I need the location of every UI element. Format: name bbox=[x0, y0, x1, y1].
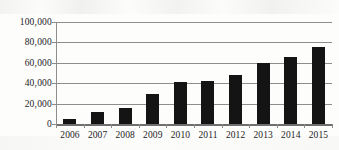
bar-2009 bbox=[146, 94, 159, 124]
x-tick-label-2008: 2008 bbox=[111, 130, 139, 141]
bar-2008 bbox=[119, 108, 132, 124]
y-tick-mark-60000 bbox=[52, 63, 57, 64]
bar-2013 bbox=[257, 63, 270, 124]
y-axis-tick-labels: 100,000 80,000 60,000 40,000 20,000 0 bbox=[0, 0, 52, 150]
x-tick-label-2010: 2010 bbox=[166, 130, 194, 141]
bar-2014 bbox=[284, 57, 297, 124]
x-tick-mark-9 bbox=[304, 124, 305, 128]
plot-area bbox=[56, 22, 332, 124]
x-tick-label-2014: 2014 bbox=[277, 130, 305, 141]
x-tick-label-2006: 2006 bbox=[56, 130, 84, 141]
bar-2006 bbox=[63, 119, 76, 124]
x-tick-mark-6 bbox=[222, 124, 223, 128]
x-tick-label-2007: 2007 bbox=[84, 130, 112, 141]
x-tick-mark-0 bbox=[56, 124, 57, 128]
x-tick-mark-10 bbox=[332, 124, 333, 128]
bar-chart-screenshot: 100,000 80,000 60,000 40,000 20,000 0 bbox=[0, 0, 339, 150]
x-tick-mark-2 bbox=[111, 124, 112, 128]
y-tick-label-80000: 80,000 bbox=[0, 37, 52, 47]
x-tick-label-2011: 2011 bbox=[194, 130, 222, 141]
y-tick-label-100000: 100,000 bbox=[0, 17, 52, 27]
x-tick-mark-3 bbox=[139, 124, 140, 128]
x-axis-tick-labels: 2006 2007 2008 2009 2010 2011 2012 2013 … bbox=[56, 130, 332, 144]
x-tick-label-2009: 2009 bbox=[139, 130, 167, 141]
y-axis-line bbox=[56, 22, 57, 124]
x-tick-mark-1 bbox=[84, 124, 85, 128]
bar-2011 bbox=[201, 81, 214, 124]
x-tick-mark-4 bbox=[166, 124, 167, 128]
x-tick-mark-5 bbox=[194, 124, 195, 128]
bar-2015 bbox=[312, 47, 325, 125]
bar-2007 bbox=[91, 112, 104, 124]
y-tick-label-20000: 20,000 bbox=[0, 99, 52, 109]
x-tick-label-2013: 2013 bbox=[249, 130, 277, 141]
bar-2012 bbox=[229, 75, 242, 124]
y-tick-mark-80000 bbox=[52, 42, 57, 43]
y-tick-mark-40000 bbox=[52, 83, 57, 84]
gridline-80000 bbox=[56, 42, 332, 43]
y-tick-label-40000: 40,000 bbox=[0, 78, 52, 88]
x-tick-mark-8 bbox=[277, 124, 278, 128]
x-tick-label-2012: 2012 bbox=[222, 130, 250, 141]
y-tick-label-0: 0 bbox=[0, 119, 52, 129]
y-tick-mark-20000 bbox=[52, 104, 57, 105]
x-tick-label-2015: 2015 bbox=[304, 130, 332, 141]
y-tick-mark-100000 bbox=[52, 22, 57, 23]
x-tick-mark-7 bbox=[249, 124, 250, 128]
gridline-100000 bbox=[56, 22, 332, 23]
y-tick-label-60000: 60,000 bbox=[0, 58, 52, 68]
bar-2010 bbox=[174, 82, 187, 124]
